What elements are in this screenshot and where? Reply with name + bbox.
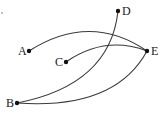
node-d-label: D	[122, 4, 131, 18]
stray-mark	[1, 12, 3, 14]
node-c-dot	[64, 60, 68, 64]
graph-diagram: A B C D E	[0, 0, 167, 116]
node-d: D	[116, 4, 131, 18]
node-a-label: A	[18, 44, 27, 58]
node-b-label: B	[6, 96, 14, 110]
node-a: A	[18, 44, 31, 58]
node-a-dot	[27, 49, 31, 53]
edge-a-e	[29, 32, 147, 52]
node-d-dot	[116, 9, 120, 13]
node-c-label: C	[55, 55, 63, 69]
node-e: E	[145, 44, 159, 58]
node-b-dot	[15, 101, 19, 105]
node-c: C	[55, 55, 68, 69]
edge-b-d	[17, 11, 118, 103]
edge-b-e	[17, 51, 147, 104]
node-e-dot	[145, 49, 149, 53]
node-b: B	[6, 96, 19, 110]
node-e-label: E	[151, 44, 158, 58]
